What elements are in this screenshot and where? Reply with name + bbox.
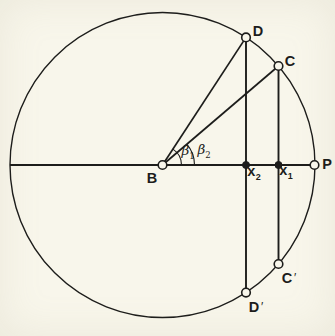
label-C: C (285, 54, 295, 69)
label-x1: x1 (279, 163, 293, 181)
line-B-to-C (163, 66, 279, 165)
point-Cprime-marker (274, 260, 283, 269)
label-B: B (147, 171, 157, 186)
point-D-marker (242, 33, 251, 42)
label-beta1: β1 (181, 144, 194, 160)
figure-canvas: D C B P x2 x1 β1 β2 C′ D′ (0, 0, 335, 336)
label-P: P (322, 157, 332, 172)
point-B-marker (158, 161, 167, 170)
label-beta2: β2 (197, 143, 210, 159)
label-C-prime: C′ (282, 271, 297, 286)
label-x2: x2 (247, 164, 261, 182)
label-D-prime: D′ (249, 300, 264, 315)
point-C-marker (274, 62, 283, 71)
point-Dprime-marker (242, 288, 251, 297)
label-D: D (253, 24, 263, 39)
point-P-marker (310, 161, 319, 170)
